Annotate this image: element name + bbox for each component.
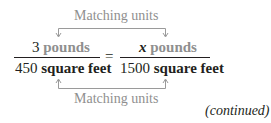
right-numerator: x pounds xyxy=(139,39,197,56)
top-matching-units-label: Matching units xyxy=(74,8,158,24)
left-fraction-bar xyxy=(14,57,100,58)
left-numerator-unit: pounds xyxy=(43,39,90,55)
right-fraction-bar xyxy=(120,57,210,58)
left-denominator-value: 450 xyxy=(15,60,38,76)
right-denominator-value: 1500 xyxy=(120,60,150,76)
continued-note: (continued) xyxy=(205,103,270,119)
left-denominator-unit: square feet xyxy=(41,60,111,76)
left-denominator: 450 square feet xyxy=(15,60,111,77)
right-numerator-unit: pounds xyxy=(150,39,197,55)
equals-sign: = xyxy=(105,48,113,65)
bottom-matching-units-label: Matching units xyxy=(74,91,158,107)
right-numerator-value: x xyxy=(139,39,147,55)
right-denominator: 1500 square feet xyxy=(120,60,224,77)
right-denominator-unit: square feet xyxy=(154,60,224,76)
left-numerator-value: 3 xyxy=(32,39,40,55)
left-numerator: 3 pounds xyxy=(32,39,90,56)
